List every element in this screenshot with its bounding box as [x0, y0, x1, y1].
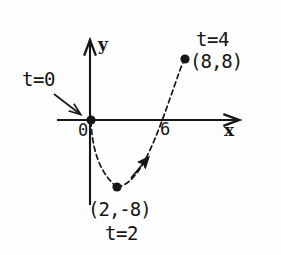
label-t0: t=0	[22, 70, 55, 89]
label-t2: t=2	[105, 224, 138, 243]
label-t4: t=4	[196, 30, 229, 49]
label-x-intercept-6: 6	[160, 121, 170, 138]
curve-segment-ascending	[117, 60, 184, 187]
point-marker-t4	[180, 54, 189, 63]
label-axis-x: x	[224, 122, 234, 139]
label-point-8-8: (8,8)	[190, 52, 242, 71]
label-origin: 0	[78, 122, 88, 139]
t0-leader-arrow	[54, 94, 80, 114]
parametric-curve-figure: t=0 t=4 (8,8) (2,-8) t=2 0 6 x y	[0, 0, 281, 255]
curve-segment-descending	[91, 121, 117, 187]
label-point-2-neg8: (2,-8)	[88, 200, 151, 219]
point-marker-t2	[112, 182, 121, 191]
label-axis-y: y	[98, 36, 108, 53]
curve-direction-arrow	[131, 159, 147, 178]
